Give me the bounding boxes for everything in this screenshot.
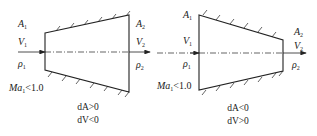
- outlet-area-label: A2: [136, 18, 145, 33]
- outlet-velocity-label: V2: [294, 40, 303, 55]
- inlet-velocity-label: V1: [18, 36, 27, 51]
- outlet-density-label: ρ2: [292, 59, 300, 74]
- mach-condition-label: Ma1<1.0: [157, 80, 191, 95]
- mach-condition-label: Ma1<1.0: [9, 82, 43, 97]
- velocity-change-condition: dV>0: [213, 115, 263, 127]
- outlet-density-label: ρ2: [136, 59, 144, 74]
- outlet-velocity-label: V2: [136, 36, 145, 51]
- inlet-density-label: ρ1: [183, 58, 191, 73]
- area-change-condition: dA<0: [213, 102, 263, 114]
- inlet-area-label: A1: [183, 9, 192, 24]
- velocity-change-condition: dV<0: [63, 114, 113, 126]
- inlet-area-label: A1: [18, 18, 27, 33]
- duct-diagrams: [0, 0, 317, 136]
- outlet-area-label: A2: [294, 26, 303, 41]
- inlet-velocity-label: V1: [183, 35, 192, 50]
- inlet-density-label: ρ1: [18, 58, 26, 73]
- area-change-condition: dA>0: [63, 101, 113, 113]
